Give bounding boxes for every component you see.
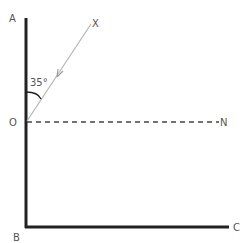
label-B: B	[13, 232, 20, 243]
angle-arc	[26, 92, 41, 99]
label-A: A	[9, 13, 16, 24]
label-O: O	[9, 117, 17, 128]
diagram-canvas: A X 35° O N B C	[0, 0, 245, 243]
ray-XO	[27, 24, 91, 121]
label-N: N	[220, 117, 227, 128]
label-C: C	[233, 222, 240, 233]
angle-label: 35°	[30, 77, 48, 88]
label-X: X	[92, 18, 99, 29]
